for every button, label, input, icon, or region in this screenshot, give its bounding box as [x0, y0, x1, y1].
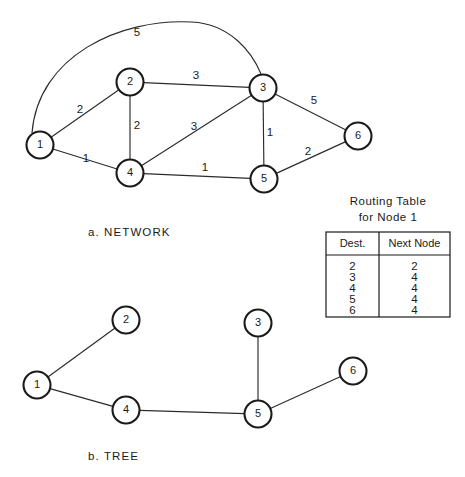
routing-table-title-line2: for Node 1: [359, 211, 418, 223]
routing-table: Routing Table for Node 1 Dest.Next Node …: [326, 195, 450, 317]
node-label-5: 5: [255, 407, 261, 419]
node-label-5: 5: [261, 172, 267, 184]
routing-table-header-next-node: Next Node: [389, 237, 441, 249]
tree-diagram: 123456 b. TREE: [24, 307, 367, 463]
edge-1-3-arc: [32, 22, 261, 133]
routing-table-body: 2234445464: [349, 260, 418, 315]
node-1: 1: [27, 132, 54, 159]
edge-weight-4-5: 1: [202, 161, 208, 173]
table-row: 34: [349, 271, 418, 283]
node-label-2: 2: [123, 313, 129, 325]
node-label-3: 3: [260, 81, 266, 93]
table-row: 44: [349, 282, 418, 294]
node-3: 3: [245, 310, 272, 337]
edge-weight-1-2: 2: [77, 103, 83, 115]
edge-2-3: [143, 83, 249, 88]
node-5: 5: [251, 166, 278, 193]
edge-weight-3-5: 1: [267, 126, 273, 138]
node-5: 5: [245, 401, 272, 428]
edge-weight-3-6: 5: [311, 94, 317, 106]
node-label-4: 4: [123, 403, 129, 415]
edge-weight-2-4: 2: [134, 119, 140, 131]
node-label-1: 1: [34, 378, 40, 390]
edge-1-2: [48, 328, 115, 377]
edge-4-5: [139, 410, 244, 413]
node-2: 2: [117, 69, 144, 96]
network-edge-layer: [51, 83, 346, 179]
table-row: 22: [349, 260, 417, 272]
routing-table-cell-dest: 6: [349, 304, 355, 316]
tree-node-layer: 123456: [24, 307, 367, 428]
table-row: 54: [349, 293, 418, 305]
node-6: 6: [340, 358, 367, 385]
edge-1-2: [51, 90, 119, 138]
network-routing-figure: 5 213231152 123456 a. NETWORK 123456 b. …: [0, 0, 465, 477]
network-diagram: 5 213231152 123456 a. NETWORK: [27, 22, 372, 238]
node-2: 2: [113, 307, 140, 334]
edge-weight-5-6: 2: [305, 145, 311, 157]
node-4: 4: [113, 397, 140, 424]
edge-1-4: [50, 389, 113, 407]
node-4: 4: [117, 160, 144, 187]
edge-weight-1-4: 1: [83, 152, 89, 164]
node-label-4: 4: [127, 166, 133, 178]
edge-weight-4-3: 3: [191, 120, 197, 132]
node-label-6: 6: [355, 129, 361, 141]
node-1: 1: [24, 372, 51, 399]
node-label-1: 1: [37, 138, 43, 150]
node-label-2: 2: [127, 75, 133, 87]
tree-caption: b. TREE: [88, 450, 139, 462]
table-row: 64: [349, 304, 418, 316]
node-6: 6: [345, 123, 372, 150]
tree-edge-layer: [48, 328, 341, 414]
edge-5-6: [270, 377, 340, 409]
routing-table-header-dest: Dest.: [340, 237, 366, 249]
routing-table-title-line1: Routing Table: [350, 195, 427, 207]
network-arc-edge-layer: 5: [32, 22, 261, 133]
edge-weight-1-3: 5: [134, 26, 140, 38]
routing-table-cell-next-node: 4: [411, 304, 418, 316]
node-label-6: 6: [350, 364, 356, 376]
routing-table-header-row: Dest.Next Node: [340, 237, 441, 249]
edge-weight-2-3: 3: [193, 69, 199, 81]
node-label-3: 3: [255, 316, 261, 328]
edge-4-5: [143, 174, 250, 179]
network-node-layer: 123456: [27, 69, 372, 193]
node-3: 3: [250, 75, 277, 102]
network-caption: a. NETWORK: [88, 226, 171, 238]
edge-3-5: [263, 101, 264, 165]
